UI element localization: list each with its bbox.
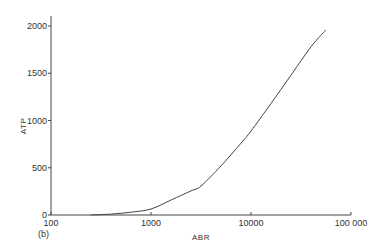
x-tick-label: 1000 <box>141 218 161 228</box>
x-axis: 100100010000100 000 ABR <box>43 212 367 242</box>
y-tick-label: 1500 <box>27 68 47 78</box>
panel-label: (b) <box>38 229 49 239</box>
line-chart: 0500100015002000 ATP 100100010000100 000… <box>0 0 387 251</box>
x-tick-label: 10000 <box>238 218 263 228</box>
y-tick-label: 500 <box>32 163 47 173</box>
y-tick-label: 2000 <box>27 21 47 31</box>
data-curve <box>91 30 326 215</box>
x-tick-label: 100 000 <box>335 218 368 228</box>
x-tick-label: 100 <box>43 218 58 228</box>
x-axis-label: ABR <box>192 233 210 242</box>
y-axis: 0500100015002000 ATP <box>19 16 51 220</box>
y-tick-label: 1000 <box>27 116 47 126</box>
y-axis-label: ATP <box>19 118 28 134</box>
